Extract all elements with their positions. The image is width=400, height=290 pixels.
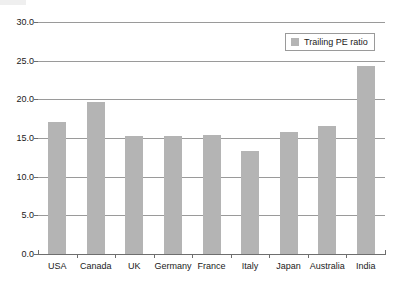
y-axis-tick-label: 5.0 [0,210,34,220]
y-axis-tick-label: 30.0 [0,17,34,27]
y-axis-tick-mark [34,61,38,62]
y-axis-tick-mark [34,138,38,139]
x-axis-tick-label: Germany [154,261,191,271]
x-axis-tick-mark [269,254,270,258]
x-axis-tick-label: Japan [276,261,301,271]
y-axis-tick-mark [34,99,38,100]
x-axis-tick-label: USA [48,261,67,271]
bar [203,135,221,254]
y-axis-tick-mark [34,177,38,178]
bar [125,136,143,254]
bar-chart: 0.05.010.015.020.025.030.0 USACanadaUKGe… [0,0,400,290]
bar [164,136,182,254]
x-axis-tick-label: UK [128,261,141,271]
y-axis-tick-label: 0.0 [0,249,34,259]
y-axis-tick-mark [34,215,38,216]
y-axis-tick-label: 20.0 [0,94,34,104]
bar [280,132,298,254]
bar [357,66,375,254]
x-axis-tick-mark [385,250,386,255]
x-axis-tick-mark [231,254,232,258]
bar [318,126,336,254]
x-axis-tick-label: Canada [80,261,112,271]
x-axis-tick-label: Australia [310,261,345,271]
y-axis-tick-label: 10.0 [0,172,34,182]
y-axis-tick-label: 15.0 [0,133,34,143]
x-axis-tick-label: France [197,261,225,271]
x-axis-tick-mark [115,254,116,258]
legend: Trailing PE ratio [285,33,375,51]
x-axis-tick-mark [77,254,78,258]
legend-swatch-icon [291,38,299,46]
x-axis-tick-mark [308,254,309,258]
x-axis-line [38,254,385,255]
top-left-artifact [0,0,26,5]
y-axis-tick-mark [34,22,38,23]
bar [241,151,259,254]
bar [87,102,105,254]
x-axis-tick-label: Italy [242,261,259,271]
x-axis-tick-mark [38,250,39,255]
x-axis-tick-mark [154,254,155,258]
x-axis-tick-mark [192,254,193,258]
plot-area [38,22,385,254]
y-axis-tick-label: 25.0 [0,56,34,66]
legend-label: Trailing PE ratio [304,37,368,47]
bar [48,122,66,254]
x-axis-tick-mark [346,254,347,258]
x-axis-tick-label: India [356,261,376,271]
bar-group [38,22,385,254]
